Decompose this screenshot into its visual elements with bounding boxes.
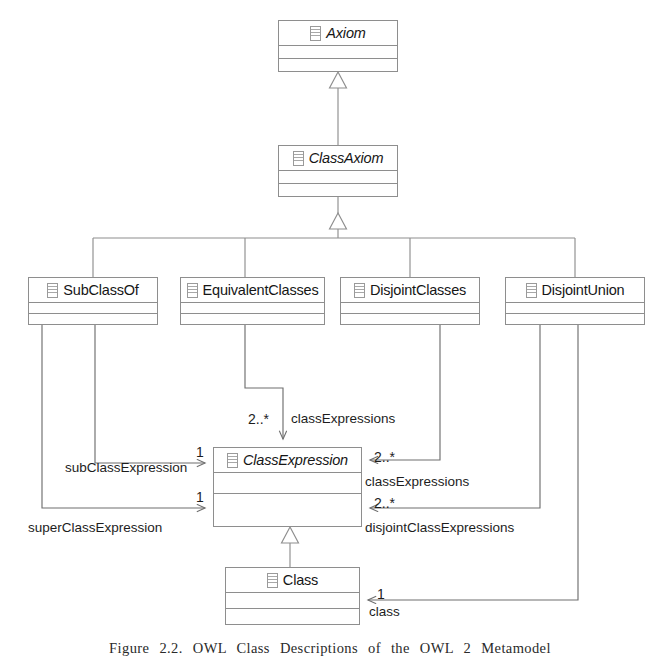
class-box-subclassof[interactable]: SubClassOf xyxy=(28,277,158,325)
class-name-subclassof: SubClassOf xyxy=(63,283,138,298)
class-operations-disjointclasses xyxy=(341,314,479,324)
class-name-classaxiom: ClassAxiom xyxy=(309,151,384,166)
class-box-disjointunion[interactable]: DisjointUnion xyxy=(505,277,645,325)
class-box-axiom[interactable]: Axiom xyxy=(278,20,398,72)
class-header-equivalentclasses: EquivalentClasses xyxy=(181,278,324,303)
class-attributes-disjointunion xyxy=(506,303,644,314)
class-operations-equivalentclasses xyxy=(181,314,324,324)
class-header-subclassof: SubClassOf xyxy=(29,278,157,303)
class-header-axiom: Axiom xyxy=(279,21,397,46)
class-stereotype-icon xyxy=(293,151,304,166)
class-box-classaxiom[interactable]: ClassAxiom xyxy=(278,145,398,197)
class-box-class[interactable]: Class xyxy=(225,567,360,625)
association-superclassexpression xyxy=(42,325,205,508)
class-name-equivalentclasses: EquivalentClasses xyxy=(203,283,319,298)
association-disjoint-classexpressions xyxy=(370,325,440,460)
class-stereotype-icon xyxy=(227,453,238,468)
class-name-disjointunion: DisjointUnion xyxy=(542,283,625,298)
class-attributes-axiom xyxy=(279,46,397,59)
multiplicity-equiv-classexpressions: 2..* xyxy=(248,412,269,426)
generalization-triangle-axiom xyxy=(330,72,347,88)
class-attributes-class xyxy=(226,593,359,609)
class-stereotype-icon xyxy=(526,283,537,298)
class-operations-subclassof xyxy=(29,314,157,324)
class-operations-classaxiom xyxy=(279,184,397,196)
multiplicity-disjoint-classexpressions: 2..* xyxy=(374,450,395,464)
role-disjoint-classexpressions: classExpressions xyxy=(365,475,469,489)
multiplicity-union-class: 1 xyxy=(377,587,385,601)
multiplicity-subclassexpression: 1 xyxy=(196,445,204,459)
class-attributes-subclassof xyxy=(29,303,157,314)
class-header-classexpression: ClassExpression xyxy=(214,448,361,473)
class-stereotype-icon xyxy=(354,283,365,298)
multiplicity-disjointclassexpressions: 2..* xyxy=(374,496,395,510)
class-name-class: Class xyxy=(283,573,318,588)
class-header-classaxiom: ClassAxiom xyxy=(279,146,397,171)
class-header-disjointclasses: DisjointClasses xyxy=(341,278,479,303)
role-disjointclassexpressions: disjointClassExpressions xyxy=(365,521,514,535)
generalization-triangle-classexpression xyxy=(282,527,299,543)
role-equiv-classexpressions: classExpressions xyxy=(291,412,395,426)
class-attributes-classaxiom xyxy=(279,171,397,184)
role-superclassexpression: superClassExpression xyxy=(28,521,162,535)
uml-diagram-canvas: Axiom ClassAxiom SubClassOf EquivalentCl… xyxy=(0,0,660,661)
class-operations-class xyxy=(226,609,359,624)
class-attributes-equivalentclasses xyxy=(181,303,324,314)
role-union-class: class xyxy=(369,605,400,619)
class-operations-disjointunion xyxy=(506,314,644,324)
class-header-disjointunion: DisjointUnion xyxy=(506,278,644,303)
class-box-disjointclasses[interactable]: DisjointClasses xyxy=(340,277,480,325)
class-header-class: Class xyxy=(226,568,359,593)
figure-caption: Figure 2.2. OWL Class Descriptions of th… xyxy=(0,640,660,661)
class-operations-classexpression xyxy=(214,494,361,525)
class-operations-axiom xyxy=(279,59,397,71)
connector-layer xyxy=(0,0,660,661)
class-name-axiom: Axiom xyxy=(326,26,365,41)
generalization-triangle-classaxiom xyxy=(330,213,347,229)
association-subclassexpression xyxy=(95,325,205,463)
multiplicity-superclassexpression: 1 xyxy=(196,490,204,504)
class-attributes-classexpression xyxy=(214,473,361,494)
class-box-equivalentclasses[interactable]: EquivalentClasses xyxy=(180,277,325,325)
class-attributes-disjointclasses xyxy=(341,303,479,314)
class-stereotype-icon xyxy=(267,573,278,588)
class-box-classexpression[interactable]: ClassExpression xyxy=(213,447,362,527)
class-stereotype-icon xyxy=(310,26,321,41)
class-name-classexpression: ClassExpression xyxy=(243,453,348,468)
association-union-class xyxy=(368,325,578,600)
class-name-disjointclasses: DisjointClasses xyxy=(370,283,466,298)
class-stereotype-icon xyxy=(47,283,58,298)
role-subclassexpression: subClassExpression xyxy=(65,461,187,475)
class-stereotype-icon xyxy=(187,283,198,298)
